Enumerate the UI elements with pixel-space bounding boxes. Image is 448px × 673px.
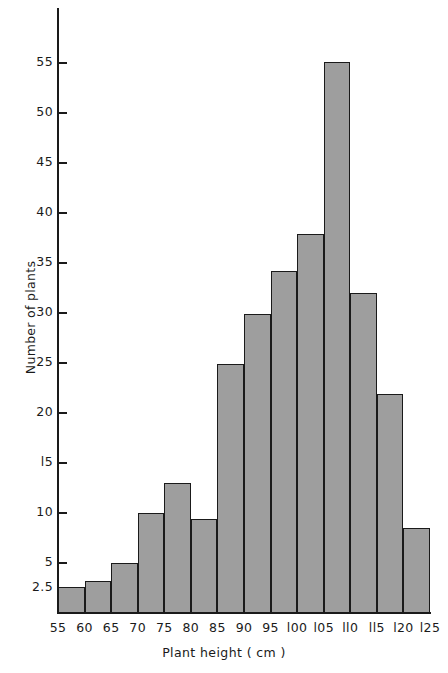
histogram-bar <box>377 394 404 613</box>
y-axis-tick-label: 40 <box>5 206 53 219</box>
histogram-bar <box>138 513 165 613</box>
histogram-bar <box>350 293 377 613</box>
histogram-bar <box>85 581 112 613</box>
y-axis-tick-label-text: 10 <box>13 506 53 519</box>
y-axis-tick-label-text: 30 <box>13 306 53 319</box>
y-axis-tick-label: 35 <box>5 256 53 269</box>
y-axis-tick-label-text: 2.5 <box>13 581 53 594</box>
y-axis-tick-label: 2.5 <box>5 581 53 594</box>
y-axis-tick-label-text: 45 <box>13 156 53 169</box>
y-axis-tick-label: 5 <box>5 556 53 569</box>
histogram-bar <box>217 364 244 613</box>
y-axis-tick-label-text: 20 <box>13 406 53 419</box>
histogram-bar <box>403 528 430 613</box>
y-axis-tick-label-text: 55 <box>13 56 53 69</box>
y-axis-tick-label: 30 <box>5 306 53 319</box>
y-axis-tick-label: 20 <box>5 406 53 419</box>
histogram-bar <box>244 314 271 613</box>
x-axis-title: Plant height ( cm ) <box>0 645 448 660</box>
histogram-bar <box>271 271 298 613</box>
histogram-bar <box>297 234 324 613</box>
y-axis-tick-label: 55 <box>5 56 53 69</box>
y-axis-tick-label-text: 50 <box>13 106 53 119</box>
histogram-bar <box>164 483 191 613</box>
y-axis-tick-label: 50 <box>5 106 53 119</box>
histogram-bar <box>324 62 351 613</box>
y-axis-tick-label-text: 40 <box>13 206 53 219</box>
y-axis-tick-label: l5 <box>5 456 53 469</box>
y-axis-tick-label: 45 <box>5 156 53 169</box>
y-axis-tick-label-text: 25 <box>13 356 53 369</box>
plot-area <box>58 8 430 614</box>
histogram-bar <box>58 587 85 613</box>
y-axis-tick-label-text: 35 <box>13 256 53 269</box>
histogram-chart: Number of plants 2.5510l5202530354045505… <box>0 0 448 673</box>
histogram-bar <box>111 563 138 613</box>
histogram-bar <box>191 519 218 613</box>
y-axis-tick-label: 25 <box>5 356 53 369</box>
y-axis-tick-label: 10 <box>5 506 53 519</box>
y-axis-tick-label-text: l5 <box>13 456 53 469</box>
x-axis-tick-label: l25 <box>410 620 448 635</box>
y-axis-tick-label-text: 5 <box>13 556 53 569</box>
